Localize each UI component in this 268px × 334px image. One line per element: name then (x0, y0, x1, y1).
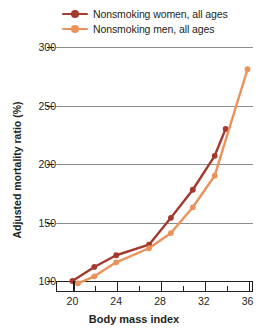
x-tick-label: 28 (145, 295, 175, 307)
data-point (190, 187, 196, 193)
series-line (78, 69, 248, 283)
data-point (212, 173, 218, 179)
data-point (91, 273, 97, 279)
x-tick-label: 32 (189, 295, 219, 307)
series-men (75, 66, 250, 286)
data-point (113, 252, 119, 258)
data-point (146, 245, 152, 251)
data-point (168, 215, 174, 221)
x-tick-label: 24 (101, 295, 131, 307)
data-point (245, 66, 251, 72)
data-point (113, 259, 119, 265)
x-tick-label: 20 (57, 295, 87, 307)
x-tick-label: 36 (233, 295, 263, 307)
mortality-bmi-chart: Nonsmoking women, all ages Nonsmoking me… (0, 0, 268, 334)
data-point (168, 230, 174, 236)
data-point (212, 153, 218, 159)
data-point (91, 264, 97, 270)
series-line (72, 129, 225, 281)
data-point (190, 204, 196, 210)
x-axis-title: Body mass index (0, 313, 268, 325)
x-axis-bottom-line (56, 291, 253, 292)
series-women (70, 126, 229, 284)
